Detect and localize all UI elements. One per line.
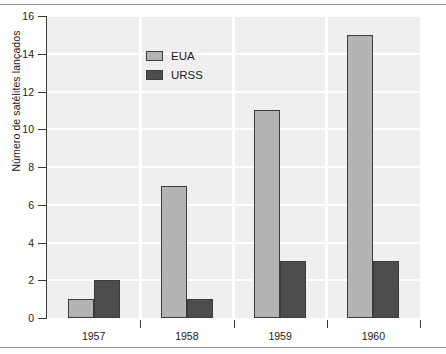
bottom-divider-rule bbox=[0, 347, 446, 348]
y-axis-tick-label: 12 bbox=[0, 87, 34, 97]
y-axis-tick bbox=[38, 92, 46, 93]
y-axis-title: Número de satélites lançados bbox=[10, 16, 28, 186]
y-axis-tick-label: 10 bbox=[0, 124, 34, 134]
y-axis-tick bbox=[38, 318, 46, 319]
y-axis-tick-label: 4 bbox=[0, 238, 34, 248]
x-axis-tick bbox=[234, 320, 235, 328]
bar-urss-1957 bbox=[94, 280, 120, 318]
y-axis-tick-label: 6 bbox=[0, 200, 34, 210]
x-axis-tick-label: 1959 bbox=[240, 330, 320, 342]
y-axis-tick-label: 8 bbox=[0, 162, 34, 172]
y-axis-tick-label: 2 bbox=[0, 275, 34, 285]
x-axis-tick bbox=[420, 320, 421, 328]
gridline-vertical bbox=[325, 16, 328, 318]
x-axis-tick-label: 1957 bbox=[54, 330, 134, 342]
x-axis-tick bbox=[140, 320, 141, 328]
gridline-vertical bbox=[232, 16, 235, 318]
legend-item-eua: EUA bbox=[146, 46, 203, 65]
x-axis-origin-stem bbox=[46, 312, 47, 319]
bar-urss-1958 bbox=[187, 299, 213, 318]
x-axis-tick-label: 1958 bbox=[147, 330, 227, 342]
legend-label-eua: EUA bbox=[171, 50, 195, 62]
y-axis-tick bbox=[38, 280, 46, 281]
bar-eua-1959 bbox=[254, 110, 280, 318]
chart-legend: EUA URSS bbox=[146, 46, 203, 84]
legend-swatch-eua bbox=[146, 51, 163, 61]
y-axis-tick bbox=[38, 205, 46, 206]
x-axis-tick bbox=[327, 320, 328, 328]
y-axis-tick-label: 14 bbox=[0, 49, 34, 59]
y-axis-tick bbox=[38, 16, 46, 17]
bar-urss-1960 bbox=[373, 261, 399, 318]
y-axis-line bbox=[46, 16, 47, 319]
bar-urss-1959 bbox=[280, 261, 306, 318]
y-axis-tick-label: 16 bbox=[0, 11, 34, 21]
x-axis-tick-label: 1960 bbox=[333, 330, 413, 342]
y-axis-tick bbox=[38, 167, 46, 168]
bar-eua-1957 bbox=[68, 299, 94, 318]
top-divider-rule bbox=[0, 4, 446, 5]
legend-swatch-urss bbox=[146, 70, 163, 80]
y-axis-tick bbox=[38, 129, 46, 130]
gridline-vertical bbox=[139, 16, 142, 318]
y-axis-tick-label: 0 bbox=[0, 313, 34, 323]
legend-item-urss: URSS bbox=[146, 65, 203, 84]
bar-eua-1958 bbox=[161, 186, 187, 318]
y-axis-tick bbox=[38, 54, 46, 55]
plot-area bbox=[47, 16, 420, 318]
bar-eua-1960 bbox=[347, 35, 373, 318]
chart-figure: Número de satélites lançados EUA URSS 02… bbox=[0, 0, 446, 354]
legend-label-urss: URSS bbox=[171, 69, 203, 81]
y-axis-tick bbox=[38, 243, 46, 244]
